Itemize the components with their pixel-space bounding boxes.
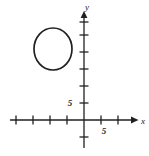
y-axis-tick-label: 5 [68,98,73,108]
x-axis-label: x [140,116,145,126]
coordinate-plane-figure: 5 5 x y [0,0,149,156]
y-axis-arrowhead [81,11,88,18]
x-axis-tick-label: 5 [102,126,107,136]
x-axis-arrowhead [131,117,139,124]
plotted-circle [34,28,72,70]
plot-svg: 5 5 x y [0,0,149,156]
y-axis-label: y [84,2,89,12]
